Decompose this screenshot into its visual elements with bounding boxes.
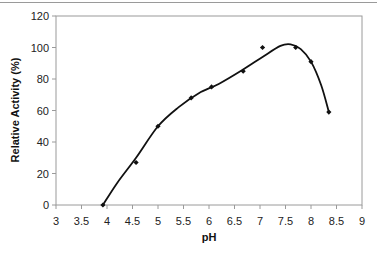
y-tick-label: 100 (31, 42, 49, 54)
x-tick-label: 8.5 (329, 215, 344, 227)
x-tick-label: 7.5 (278, 215, 293, 227)
y-tick-label: 120 (31, 10, 49, 22)
y-axis-title: Relative Activity (%) (9, 57, 21, 162)
x-tick-label: 3.5 (74, 215, 89, 227)
plot-frame (56, 16, 362, 205)
x-tick-label: 6 (206, 215, 212, 227)
y-tick-label: 40 (37, 136, 49, 148)
x-tick-label: 5 (155, 215, 161, 227)
x-tick-label: 8 (308, 215, 314, 227)
x-tick-label: 4 (104, 215, 110, 227)
y-tick-label: 20 (37, 168, 49, 180)
x-axis-title: pH (202, 231, 217, 243)
data-point-marker (326, 109, 331, 114)
plot-area-border (56, 16, 362, 205)
x-tick-label: 4.5 (125, 215, 140, 227)
y-tick-label: 80 (37, 73, 49, 85)
data-point-marker (260, 45, 265, 50)
data-markers (100, 45, 331, 208)
x-tick-label: 3 (53, 215, 59, 227)
fit-line (103, 44, 329, 205)
x-tick-label: 7 (257, 215, 263, 227)
y-tick-label: 0 (43, 199, 49, 211)
fit-curve (103, 44, 329, 205)
ph-activity-chart: 020406080100120 33.544.555.566.577.588.5… (0, 0, 377, 257)
x-tick-label: 5.5 (176, 215, 191, 227)
x-tick-label: 9 (359, 215, 365, 227)
y-axis: 020406080100120 (31, 10, 56, 211)
x-tick-label: 6.5 (227, 215, 242, 227)
y-tick-label: 60 (37, 105, 49, 117)
x-axis: 33.544.555.566.577.588.59 (53, 205, 365, 227)
